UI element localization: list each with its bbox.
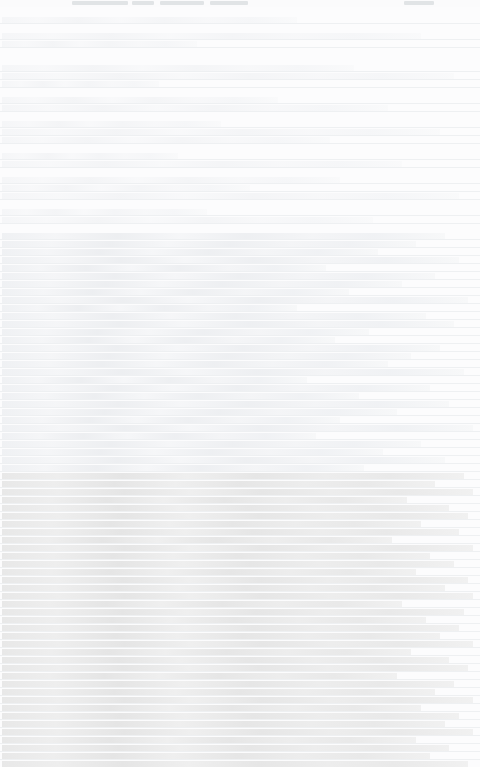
console-line (0, 368, 480, 376)
console-line (0, 760, 480, 767)
console-line-text (2, 369, 464, 375)
console-line (0, 240, 480, 248)
console-line (0, 440, 480, 448)
console-line-text (2, 649, 411, 655)
console-line (0, 128, 480, 136)
console-line (0, 16, 480, 24)
console-line (0, 632, 480, 640)
console-line-text (2, 41, 197, 47)
console-line-text (2, 417, 340, 423)
console-line-text (2, 577, 468, 583)
console-line (0, 24, 480, 32)
console-line (0, 360, 480, 368)
console-line-text (2, 265, 326, 271)
console-line (0, 384, 480, 392)
console-line (0, 320, 480, 328)
console-line (0, 608, 480, 616)
console-line (0, 328, 480, 336)
title-bar-segment-4[interactable] (404, 1, 434, 5)
console-line-text (2, 593, 473, 599)
console-line-text (2, 385, 430, 391)
console-line (0, 312, 480, 320)
console-line-text (2, 689, 435, 695)
console-line (0, 120, 480, 128)
console-line (0, 456, 480, 464)
console-line (0, 96, 480, 104)
console-line-text (2, 433, 316, 439)
console-line-text (2, 97, 278, 103)
console-line (0, 720, 480, 728)
console-line (0, 664, 480, 672)
console-line-text (2, 393, 359, 399)
console-text-surface[interactable] (0, 8, 480, 767)
console-line-text (2, 73, 454, 79)
console-line (0, 304, 480, 312)
console-line-text (2, 617, 426, 623)
title-bar-segment-2[interactable] (160, 1, 204, 5)
console-line-text (2, 297, 468, 303)
console-line (0, 168, 480, 176)
console-zone-mid-dense (0, 232, 480, 472)
console-line-text (2, 241, 416, 247)
console-line (0, 200, 480, 208)
console-line (0, 696, 480, 704)
console-line (0, 736, 480, 744)
console-line (0, 504, 480, 512)
console-line (0, 560, 480, 568)
console-line (0, 576, 480, 584)
console-line (0, 192, 480, 200)
console-line (0, 296, 480, 304)
console-line (0, 376, 480, 384)
console-line (0, 408, 480, 416)
console-line (0, 616, 480, 624)
console-line (0, 392, 480, 400)
console-line (0, 728, 480, 736)
console-line-text (2, 17, 297, 23)
title-bar-segment-0[interactable] (72, 1, 128, 5)
console-line-text (2, 729, 473, 735)
console-line (0, 584, 480, 592)
console-line-text (2, 329, 369, 335)
console-zone-core-heavy (0, 472, 480, 767)
console-line-text (2, 137, 330, 143)
console-line-text (2, 313, 426, 319)
console-line-text (2, 529, 459, 535)
console-line (0, 656, 480, 664)
console-line-text (2, 705, 421, 711)
console-line (0, 568, 480, 576)
console-line (0, 224, 480, 232)
console-line (0, 40, 480, 48)
title-bar-segment-1[interactable] (132, 1, 154, 5)
console-line (0, 336, 480, 344)
console-line (0, 528, 480, 536)
console-line-text (2, 497, 407, 503)
console-line-text (2, 545, 473, 551)
console-line (0, 424, 480, 432)
console-line-text (2, 465, 364, 471)
console-line-text (2, 761, 468, 767)
console-line-text (2, 281, 402, 287)
console-line-text (2, 745, 449, 751)
console-line (0, 520, 480, 528)
console-line (0, 176, 480, 184)
console-line-text (2, 449, 383, 455)
console-line-text (2, 625, 459, 631)
console-line (0, 144, 480, 152)
title-bar-segment-3[interactable] (210, 1, 248, 5)
console-line-text (2, 441, 421, 447)
console-line-text (2, 489, 473, 495)
console-line-text (2, 129, 440, 135)
console-line (0, 624, 480, 632)
console-line-text (2, 753, 430, 759)
console-line (0, 432, 480, 440)
console-line (0, 416, 480, 424)
console-line-text (2, 457, 445, 463)
console-line (0, 256, 480, 264)
console-line-text (2, 633, 440, 639)
title-bar (0, 0, 480, 7)
console-line-text (2, 217, 373, 223)
console-line-text (2, 673, 397, 679)
console-line-text (2, 561, 454, 567)
console-line-text (2, 425, 473, 431)
console-line-text (2, 553, 430, 559)
